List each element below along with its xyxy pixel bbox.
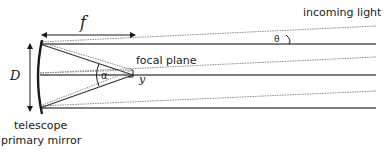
- focal-plane-label: focal plane: [136, 54, 197, 67]
- mirror-label-line1: telescope: [14, 119, 67, 132]
- telescope-diagram: f D incoming light θ focal plane α y tel…: [0, 0, 387, 155]
- theta-arc: [286, 35, 290, 44]
- primary-mirror: [38, 40, 42, 114]
- mirror-label-line2: primary mirror: [1, 134, 82, 147]
- alpha-label: α: [101, 70, 108, 81]
- y-label: y: [138, 73, 146, 86]
- focal-length-label: f: [79, 13, 89, 32]
- reflected-rays: [40, 44, 133, 108]
- reflected-off-axis-rays: [40, 42, 133, 106]
- off-axis-rays: [40, 26, 376, 106]
- incoming-light-label: incoming light: [303, 6, 382, 19]
- theta-label: θ: [274, 34, 280, 44]
- diameter-label: D: [9, 68, 21, 83]
